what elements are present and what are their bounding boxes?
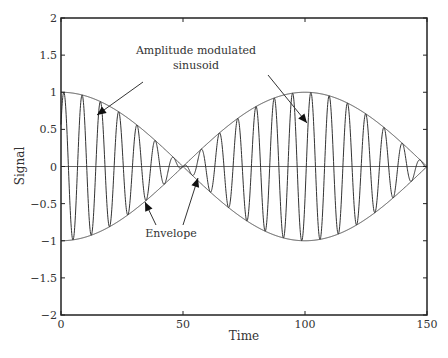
y-axis-label: Signal	[13, 147, 27, 186]
arrow-envelope-right-head	[191, 178, 199, 188]
arrow-am-right-head	[298, 113, 307, 123]
y-tick-label: −1.5	[30, 272, 57, 285]
x-axis-label: Time	[229, 329, 259, 343]
x-tick-label: 150	[417, 318, 438, 331]
y-tick-label: 2	[50, 12, 57, 25]
x-tick-label: 50	[176, 318, 190, 331]
y-tick-label: 0	[50, 161, 57, 174]
y-tick-label: −2	[41, 309, 57, 322]
y-tick-label: 1	[50, 86, 57, 99]
x-tick-label: 0	[58, 318, 65, 331]
y-tick-label: −1	[41, 235, 57, 248]
x-tick-label: 100	[295, 318, 316, 331]
annotation-am-line2: sinusoid	[173, 59, 219, 72]
y-tick-label: 1.5	[40, 49, 58, 62]
plot-area	[61, 92, 427, 241]
axes: 050100150−2−1.5−1−0.500.511.52	[30, 12, 437, 331]
y-tick-label: 0.5	[40, 123, 58, 136]
y-tick-label: −0.5	[30, 198, 57, 211]
annotation-envelope: Envelope	[145, 227, 197, 240]
annotation-am-line1: Amplitude modulated	[135, 44, 256, 57]
am-signal-chart: 050100150−2−1.5−1−0.500.511.52 Time Sign…	[0, 0, 448, 358]
